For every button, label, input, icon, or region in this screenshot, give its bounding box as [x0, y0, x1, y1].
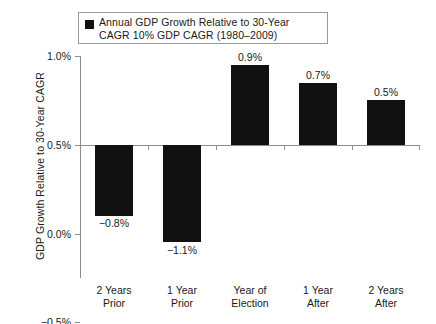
x-category-label-3-line-2: After: [303, 297, 333, 310]
legend-label: Annual GDP Growth Relative to 30-Year CA…: [99, 16, 323, 42]
x-category-label-4: 2 Years After: [368, 284, 403, 310]
x-category-label-0-line-2: Prior: [96, 297, 131, 310]
bar-4: [367, 100, 405, 144]
y-axis-line: [80, 56, 81, 278]
x-category-label-2-line-1: Year of: [231, 284, 268, 297]
x-tick-mark: [284, 145, 285, 150]
x-category-label-4-line-2: After: [368, 297, 403, 310]
y-tick-label: 0.0%: [47, 228, 71, 240]
legend-swatch-icon: [85, 20, 94, 29]
bar-value-4: 0.5%: [374, 86, 398, 98]
bar-chart: Annual GDP Growth Relative to 30-Year CA…: [0, 0, 436, 324]
x-category-label-2: Year of Election: [231, 284, 268, 310]
y-tick-mark: [75, 234, 80, 235]
x-category-label-1: 1 Year Prior: [167, 284, 197, 310]
bar-value-1: −1.1%: [167, 244, 197, 256]
x-tick-mark: [148, 145, 149, 150]
y-tick-mark: [75, 322, 80, 323]
x-category-label-2-line-2: Election: [231, 297, 268, 310]
y-tick-label: −0.5%: [41, 316, 71, 324]
bar-value-2: 0.9%: [238, 51, 262, 63]
x-category-label-4-line-1: 2 Years: [368, 284, 403, 297]
x-category-label-3: 1 Year After: [303, 284, 333, 310]
x-category-label-3-line-1: 1 Year: [303, 284, 333, 297]
x-category-label-1-line-1: 1 Year: [167, 284, 197, 297]
legend-label-line-1: Annual GDP Growth Relative to 30-Year: [99, 16, 323, 29]
x-tick-mark: [352, 145, 353, 150]
bar-value-3: 0.7%: [306, 69, 330, 81]
bar-3: [299, 83, 337, 145]
bar-1: [163, 145, 201, 243]
legend-label-line-2: CAGR 10% GDP CAGR (1980–2009): [99, 29, 323, 42]
plot-area: 1.0% 0.5% 0.0% −0.5% −1.0% −1.5%: [80, 56, 420, 278]
x-tick-mark: [80, 145, 81, 150]
bar-value-0: −0.8%: [99, 217, 129, 229]
chart-legend: Annual GDP Growth Relative to 30-Year CA…: [78, 12, 328, 44]
y-tick-mark: [75, 56, 80, 57]
y-tick-label: 0.5%: [47, 139, 71, 151]
y-axis-title: GDP Growth Relative to 30-Year CAGR: [34, 46, 46, 286]
x-category-label-0: 2 Years Prior: [96, 284, 131, 310]
bar-0: [95, 145, 133, 216]
x-category-label-0-line-1: 2 Years: [96, 284, 131, 297]
x-category-label-1-line-2: Prior: [167, 297, 197, 310]
y-tick-label: 1.0%: [47, 50, 71, 62]
bar-2: [231, 65, 269, 145]
x-tick-mark: [216, 145, 217, 150]
x-tick-mark: [419, 145, 420, 150]
